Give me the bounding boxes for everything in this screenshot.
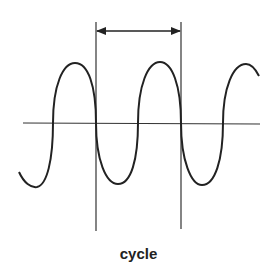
cycle-diagram: cycle [0, 0, 277, 265]
diagram-graphic [0, 0, 277, 265]
sine-wave [19, 62, 259, 187]
horizontal-axis [23, 123, 260, 124]
cycle-label: cycle [0, 245, 277, 262]
